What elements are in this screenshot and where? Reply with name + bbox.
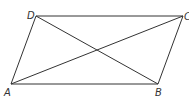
vertex-label-a: A [3, 87, 11, 98]
vertex-label-c: C [184, 11, 189, 22]
vertex-label-d: D [27, 10, 35, 21]
side-da [11, 16, 36, 84]
side-bc [158, 16, 183, 84]
parallelogram-diagram: A B C D [0, 0, 189, 101]
diagonal-bd [36, 16, 158, 84]
vertex-label-b: B [155, 87, 162, 98]
